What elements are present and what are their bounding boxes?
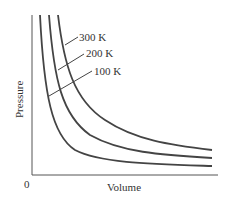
x-axis-label: Volume bbox=[107, 181, 141, 193]
pv-isotherm-chart: 300 K 200 K 100 K 0 Volume Pressure bbox=[0, 0, 227, 203]
label-100k: 100 K bbox=[94, 65, 121, 77]
label-300k: 300 K bbox=[79, 31, 106, 43]
curve-100k bbox=[40, 15, 212, 166]
y-axis-label: Pressure bbox=[13, 81, 25, 118]
leader-300k bbox=[65, 37, 78, 45]
origin-label: 0 bbox=[24, 178, 30, 190]
leader-200k bbox=[58, 54, 84, 70]
label-200k: 200 K bbox=[86, 47, 113, 59]
axes bbox=[32, 15, 218, 175]
curve-200k bbox=[49, 15, 212, 158]
isotherm-curves bbox=[40, 15, 212, 166]
